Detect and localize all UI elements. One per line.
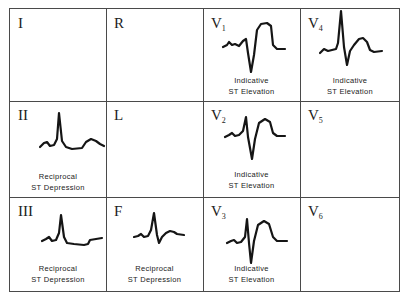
lead-cell-I: I: [10, 9, 106, 101]
ecg-trace-st-elevation: [310, 9, 400, 79]
lead-caption: ReciprocalST Depression: [10, 263, 106, 285]
lead-cell-F: F ReciprocalST Depression: [106, 197, 203, 291]
ecg-trace-st-depression: [120, 205, 200, 255]
lead-cell-V6: V6: [300, 197, 400, 291]
lead-caption: ReciprocalST Depression: [106, 263, 203, 285]
lead-cell-V5: V5: [300, 101, 400, 197]
lead-label: V6: [308, 203, 323, 221]
lead-cell-III: III ReciprocalST Depression: [10, 197, 106, 291]
lead-label: L: [114, 107, 123, 124]
ecg-trace-st-elevation: [213, 207, 297, 267]
lead-cell-V4: V4 IndicativeST Elevation: [300, 9, 400, 101]
ecg-trace-st-elevation: [215, 109, 295, 169]
lead-caption: IndicativeST Elevation: [203, 75, 300, 97]
lead-cell-V2: V2 IndicativeST Elevation: [203, 101, 300, 197]
ecg-trace-st-depression: [30, 205, 110, 255]
lead-label: V5: [308, 107, 323, 125]
lead-cell-V1: V1 IndicativeST Elevation: [203, 9, 300, 101]
lead-cell-R: R: [106, 9, 203, 101]
lead-caption: ReciprocalST Depression: [10, 171, 106, 193]
lead-cell-L: L: [106, 101, 203, 197]
ecg-lead-grid: I R V1 IndicativeST Elevation V4 Indicat…: [9, 8, 400, 292]
ecg-trace-st-depression: [30, 109, 110, 159]
lead-caption: IndicativeST Elevation: [203, 263, 300, 285]
lead-cell-V3: V3 IndicativeST Elevation: [203, 197, 300, 291]
lead-label: I: [18, 15, 23, 32]
lead-caption: IndicativeST Elevation: [203, 169, 300, 191]
lead-caption: IndicativeST Elevation: [300, 75, 400, 97]
ecg-trace-st-elevation: [215, 15, 295, 75]
lead-label: II: [18, 107, 28, 124]
lead-label: R: [114, 15, 124, 32]
lead-cell-II: II ReciprocalST Depression: [10, 101, 106, 197]
